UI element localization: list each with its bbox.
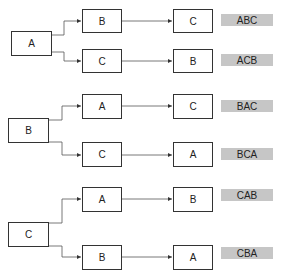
result-label-bca: BCA (221, 148, 273, 160)
result-label-cab: CAB (221, 189, 273, 201)
node-b: B (82, 245, 122, 270)
node-b: B (173, 187, 213, 212)
node-a: A (82, 94, 122, 119)
result-label-acb: ACB (221, 54, 273, 66)
node-c: C (173, 94, 213, 119)
node-b: B (82, 9, 122, 33)
node-c: C (82, 142, 122, 167)
root-node-a: A (11, 31, 52, 56)
node-c: C (82, 49, 122, 73)
node-a: A (82, 187, 122, 212)
node-b: B (173, 49, 213, 73)
root-node-b: B (8, 118, 49, 143)
node-c: C (173, 9, 213, 33)
result-label-bac: BAC (221, 100, 273, 112)
result-label-abc: ABC (221, 14, 273, 26)
node-a: A (173, 142, 213, 167)
node-a: A (173, 245, 213, 270)
root-node-c: C (8, 222, 49, 247)
result-label-cba: CBA (221, 247, 273, 259)
